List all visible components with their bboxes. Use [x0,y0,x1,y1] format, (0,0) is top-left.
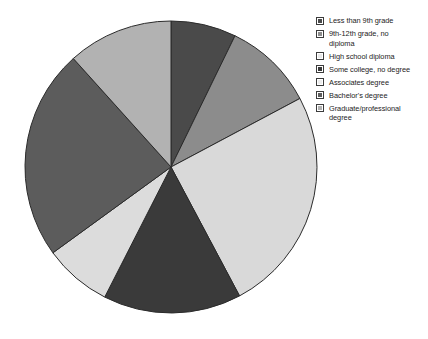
legend-item[interactable]: Less than 9th grade [316,16,426,26]
legend-item-label: High school diploma [329,52,395,62]
legend-item-label: Associates degree [329,78,389,88]
legend-item-label: Bachelor's degree [329,91,388,101]
legend-item[interactable]: Associates degree [316,78,426,88]
legend-swatch-icon [316,17,324,25]
legend-item[interactable]: Bachelor's degree [316,91,426,101]
legend-item-label: Some college, no degree [329,65,410,75]
legend-item-label: 9th-12th grade, no diploma [329,29,389,48]
legend-swatch-icon [316,78,324,86]
legend-swatch-icon [316,104,324,112]
legend-item-label: Less than 9th grade [329,16,393,26]
legend-item[interactable]: Some college, no degree [316,65,426,75]
legend-swatch-icon [316,91,324,99]
legend-item[interactable]: Graduate/professional degree [316,104,426,123]
pie-slice-group [25,21,317,313]
legend-item[interactable]: High school diploma [316,52,426,62]
legend-item-label: Graduate/professional degree [329,104,401,123]
chart-legend: Less than 9th grade9th-12th grade, no di… [316,16,426,126]
legend-swatch-icon [316,52,324,60]
legend-swatch-icon [316,65,324,73]
pie-chart-figure: Less than 9th grade9th-12th grade, no di… [0,0,428,339]
legend-swatch-icon [316,30,324,38]
legend-item[interactable]: 9th-12th grade, no diploma [316,29,426,48]
